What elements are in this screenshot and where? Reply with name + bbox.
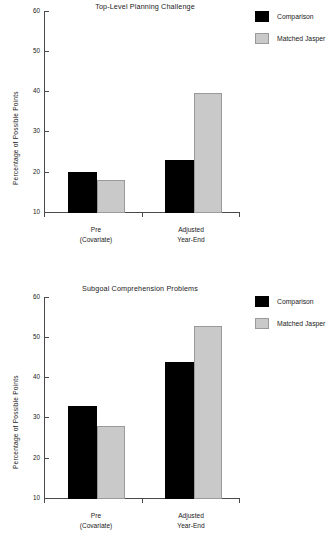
y-tick-mark xyxy=(45,377,49,378)
x-tick-mark xyxy=(44,499,45,503)
y-tick-mark xyxy=(45,297,49,298)
y-tick-label: 60 xyxy=(24,7,40,14)
y-tick-label: 40 xyxy=(24,373,40,380)
y-tick-label: 50 xyxy=(24,333,40,340)
y-tick-label: 40 xyxy=(24,87,40,94)
x-tick-mark xyxy=(239,499,240,503)
plot-area-bottom: 10 20 30 40 50 60 Pre (Covariate) Adjust… xyxy=(0,271,331,543)
legend-label-comparison: Comparison xyxy=(277,296,314,307)
bar-comparison-pre xyxy=(68,172,97,213)
bar-jasper-adjusted xyxy=(194,93,222,213)
y-tick-label: 10 xyxy=(24,494,40,501)
x-group-label-line1: Pre xyxy=(53,511,139,521)
bar-comparison-adjusted xyxy=(165,362,194,499)
x-group-label-line2: (Covariate) xyxy=(53,235,139,245)
legend-swatch-jasper xyxy=(255,33,269,44)
y-tick-label: 30 xyxy=(24,127,40,134)
y-tick-label: 50 xyxy=(24,47,40,54)
x-tick-mark xyxy=(239,213,240,217)
legend-label-comparison: Comparison xyxy=(277,11,314,22)
x-group-label-line1: Pre xyxy=(53,225,139,235)
y-tick-label: 20 xyxy=(24,168,40,175)
x-group-label-line1: Adjusted xyxy=(148,225,234,235)
x-group-label-line2: (Covariate) xyxy=(53,521,139,531)
legend-swatch-comparison xyxy=(255,11,269,22)
y-tick-label: 20 xyxy=(24,454,40,461)
y-axis-line xyxy=(44,11,45,213)
y-tick-mark xyxy=(45,417,49,418)
bar-jasper-pre xyxy=(97,180,125,213)
x-group-label-line2: Year-End xyxy=(148,521,234,531)
legend-swatch-jasper xyxy=(255,318,269,329)
y-tick-label: 30 xyxy=(24,413,40,420)
y-tick-mark xyxy=(45,337,49,338)
y-tick-mark xyxy=(45,91,49,92)
y-tick-label: 60 xyxy=(24,293,40,300)
bar-comparison-adjusted xyxy=(165,160,194,213)
legend-swatch-comparison xyxy=(255,296,269,307)
y-tick-label: 10 xyxy=(24,208,40,215)
legend-label-jasper: Matched Jasper xyxy=(277,318,325,329)
x-tick-mark xyxy=(44,213,45,217)
y-tick-mark xyxy=(45,498,49,499)
y-tick-mark xyxy=(45,131,49,132)
bar-jasper-adjusted xyxy=(194,326,222,499)
x-group-label-adjusted: Adjusted Year-End xyxy=(148,511,234,530)
bar-jasper-pre xyxy=(97,426,125,499)
y-tick-mark xyxy=(45,212,49,213)
x-group-label-pre: Pre (Covariate) xyxy=(53,511,139,530)
x-tick-mark xyxy=(142,499,143,503)
x-group-label-line1: Adjusted xyxy=(148,511,234,521)
x-tick-mark xyxy=(142,213,143,217)
x-group-label-adjusted: Adjusted Year-End xyxy=(148,225,234,244)
chart-figure-bottom: Subgoal Comprehension Problems Percentag… xyxy=(0,271,331,543)
bar-comparison-pre xyxy=(68,406,97,499)
chart-figure-top: Top-Level Planning Challenge Percentage … xyxy=(0,0,331,271)
y-tick-mark xyxy=(45,11,49,12)
y-tick-mark xyxy=(45,51,49,52)
y-axis-line xyxy=(44,297,45,499)
x-group-label-line2: Year-End xyxy=(148,235,234,245)
y-tick-mark xyxy=(45,172,49,173)
y-tick-mark xyxy=(45,458,49,459)
x-group-label-pre: Pre (Covariate) xyxy=(53,225,139,244)
legend-label-jasper: Matched Jasper xyxy=(277,33,325,44)
